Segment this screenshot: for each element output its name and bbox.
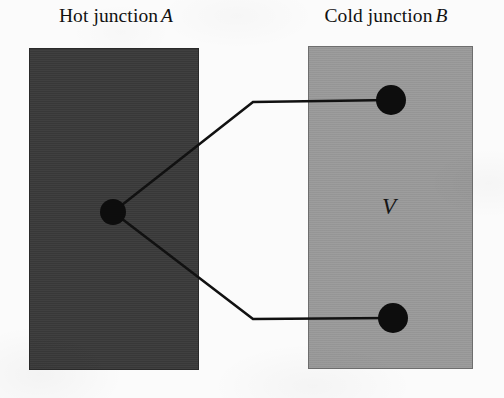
hot-junction-caption: Hot junctionA [0, 6, 232, 26]
cold-junction-caption: Cold junctionB [268, 6, 504, 26]
voltmeter-symbol: V [361, 195, 417, 218]
hot-junction-block [29, 48, 199, 370]
hot-junction-caption-variable: A [158, 5, 173, 26]
cold-junction-caption-text: Cold junction [324, 5, 432, 26]
hot-junction-caption-text: Hot junction [59, 5, 158, 26]
cold-junction-caption-variable: B [433, 5, 448, 26]
thermocouple-diagram: Hot junctionA Cold junctionB V [0, 0, 504, 398]
